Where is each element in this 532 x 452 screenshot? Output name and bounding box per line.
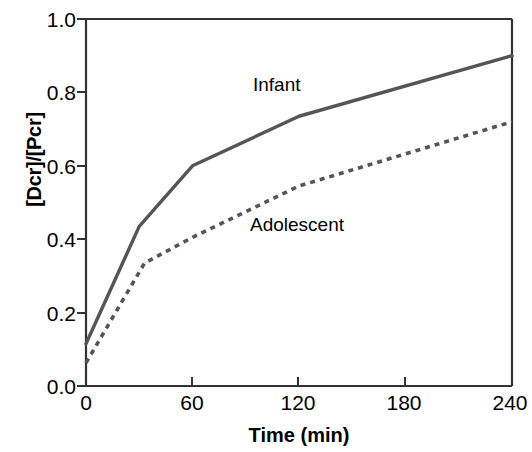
x-axis-ticks [86,377,512,386]
series-line-infant [86,56,512,344]
series-line-adolescent [86,122,512,363]
y-axis-ticks [77,19,86,386]
